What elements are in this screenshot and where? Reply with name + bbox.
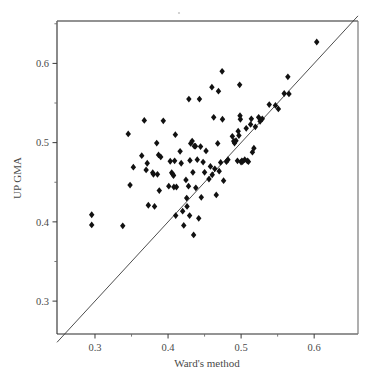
scan-speck-artifact: [178, 12, 180, 14]
data-point: [127, 182, 132, 189]
data-point: [183, 176, 188, 183]
data-point: [172, 157, 177, 164]
data-point: [220, 116, 225, 123]
data-point: [221, 177, 226, 184]
data-point: [286, 91, 291, 98]
data-point: [142, 117, 147, 124]
data-point: [244, 125, 249, 132]
x-tick-label: 0.5: [235, 342, 248, 353]
data-point: [195, 156, 200, 163]
data-point: [219, 68, 224, 75]
data-point: [215, 140, 220, 147]
data-point: [177, 148, 182, 155]
data-point: [145, 160, 150, 167]
plot-frame: [57, 21, 358, 334]
data-point: [184, 203, 189, 210]
data-point: [206, 176, 211, 183]
data-point: [120, 222, 125, 229]
x-tick-label: 0.3: [88, 342, 101, 353]
scatter-plot-figure: 0.30.40.50.60.30.40.50.6 Ward's method U…: [0, 0, 377, 385]
data-point: [202, 169, 207, 176]
data-point: [166, 183, 171, 190]
data-point: [161, 117, 166, 124]
data-point: [168, 158, 173, 165]
data-point: [89, 211, 94, 218]
data-point: [152, 203, 157, 210]
data-point: [218, 159, 223, 166]
data-point: [237, 81, 242, 88]
data-point: [314, 39, 319, 46]
data-point: [173, 131, 178, 138]
data-point: [248, 121, 253, 128]
data-point: [178, 160, 183, 167]
data-point: [89, 221, 94, 228]
data-point: [203, 148, 208, 155]
data-point: [146, 202, 151, 209]
data-point: [187, 212, 192, 219]
data-point: [200, 159, 205, 166]
y-tick-label: 0.4: [36, 217, 50, 228]
data-point: [191, 232, 196, 239]
chart-canvas: 0.30.40.50.60.30.40.50.6 Ward's method U…: [0, 0, 377, 385]
data-point: [155, 171, 160, 178]
data-point: [139, 152, 144, 159]
data-point: [199, 194, 204, 201]
data-point: [249, 115, 254, 122]
data-point: [173, 212, 178, 219]
data-point: [211, 114, 216, 121]
data-point: [190, 169, 195, 176]
y-axis-title: UP GMA: [11, 157, 23, 199]
data-point: [143, 167, 148, 174]
data-point: [214, 192, 219, 199]
data-point: [285, 73, 290, 80]
x-tick-label: 0.6: [308, 342, 321, 353]
data-point: [198, 143, 203, 150]
y-tick-label: 0.5: [36, 137, 49, 148]
data-point: [267, 101, 272, 108]
data-point: [209, 84, 214, 91]
data-point: [181, 222, 186, 229]
data-point: [180, 208, 185, 215]
data-point: [131, 164, 136, 171]
data-point: [186, 183, 191, 190]
data-point: [187, 157, 192, 164]
data-point: [154, 140, 159, 147]
data-point: [196, 215, 201, 222]
y-tick-label: 0.3: [36, 296, 49, 307]
data-point: [281, 90, 286, 97]
axis-ticks: [53, 24, 315, 339]
data-point: [236, 132, 241, 139]
data-point: [126, 131, 131, 138]
x-axis-title: Ward's method: [174, 357, 240, 369]
data-point: [216, 88, 221, 95]
data-point: [197, 96, 202, 103]
x-tick-label: 0.4: [161, 342, 175, 353]
y-tick-label: 0.6: [36, 58, 49, 69]
data-point: [157, 187, 162, 194]
data-point: [184, 195, 189, 202]
scatter-points: [89, 39, 319, 239]
data-point: [186, 96, 191, 103]
